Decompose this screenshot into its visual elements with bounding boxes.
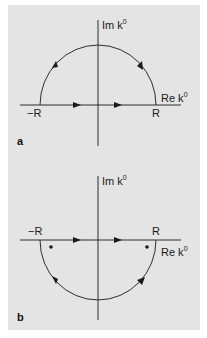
pole-dot: [145, 245, 149, 249]
arrow-right-icon: [73, 102, 81, 108]
left-endpoint-label: −R: [28, 225, 42, 237]
right-endpoint-label: R: [152, 225, 160, 237]
arrow-right-icon: [114, 102, 122, 108]
right-endpoint-label: R: [152, 107, 160, 119]
imaginary-axis-label: Im k0: [102, 18, 127, 31]
panel-tag: a: [17, 135, 24, 147]
pole-dot: [49, 245, 53, 249]
panel-tag: b: [17, 311, 24, 323]
arrow-arc-icon: [137, 61, 143, 70]
imaginary-axis-label: Im k0: [102, 174, 127, 187]
panel-b: Im k0 Re k0 −R R b: [17, 174, 188, 323]
arrow-right-icon: [73, 237, 81, 243]
real-axis-label: Re k0: [161, 245, 188, 258]
contour-figure: Im k0 Re k0 −R R a Im k0 Re k0 −R R b: [0, 0, 207, 338]
arrow-right-icon: [114, 237, 122, 243]
left-endpoint-label: −R: [27, 107, 41, 119]
real-axis-label: Re k0: [161, 91, 188, 104]
panel-a: Im k0 Re k0 −R R a: [17, 18, 188, 147]
